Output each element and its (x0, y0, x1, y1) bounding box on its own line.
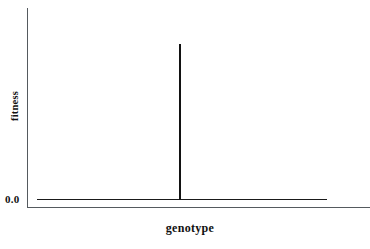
data-series-baseline (37, 199, 327, 200)
fitness-genotype-chart: 0.0 fitness genotype (0, 0, 370, 249)
y-axis-title: fitness (9, 78, 21, 134)
x-axis-line (27, 207, 370, 208)
y-axis-tick-label-zero: 0.0 (5, 193, 19, 205)
x-axis-title: genotype (110, 221, 270, 235)
y-axis-line (27, 8, 28, 208)
data-series-peak-spike (179, 44, 181, 200)
